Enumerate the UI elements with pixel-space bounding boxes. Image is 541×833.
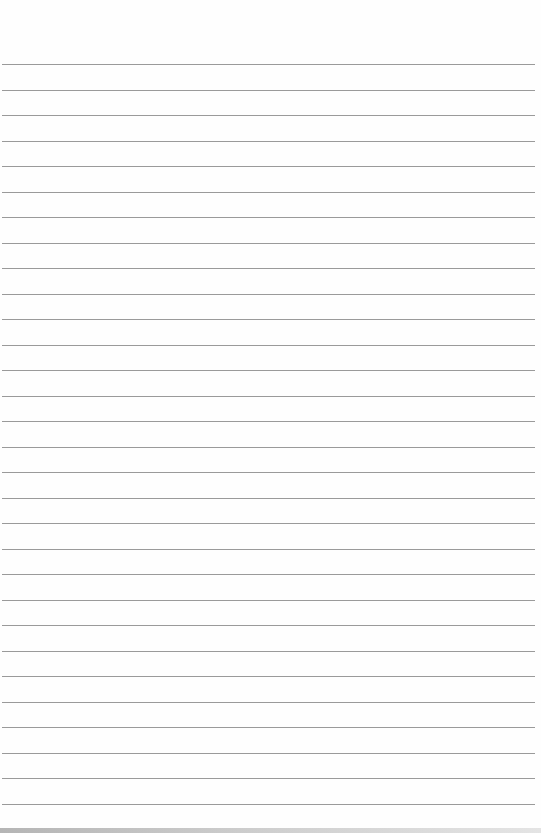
ruled-line <box>2 64 535 65</box>
ruled-line <box>2 217 535 218</box>
ruled-line <box>2 753 535 754</box>
ruled-line <box>2 90 535 91</box>
ruled-line <box>2 472 535 473</box>
ruled-line <box>2 421 535 422</box>
ruled-line <box>2 625 535 626</box>
lined-paper-page <box>0 0 541 833</box>
ruled-line <box>2 498 535 499</box>
ruled-line <box>2 268 535 269</box>
ruled-line <box>2 778 535 779</box>
ruled-line <box>2 243 535 244</box>
ruled-line <box>2 192 535 193</box>
ruled-line <box>2 370 535 371</box>
ruled-line <box>2 651 535 652</box>
ruled-line <box>2 447 535 448</box>
ruled-line <box>2 396 535 397</box>
ruled-line <box>2 141 535 142</box>
ruled-line <box>2 523 535 524</box>
page-bottom-edge <box>0 828 541 833</box>
ruled-line <box>2 294 535 295</box>
ruled-line <box>2 166 535 167</box>
ruled-line <box>2 319 535 320</box>
ruled-line <box>2 727 535 728</box>
ruled-line <box>2 115 535 116</box>
ruled-line <box>2 600 535 601</box>
ruled-line <box>2 345 535 346</box>
ruled-line <box>2 676 535 677</box>
ruled-line <box>2 574 535 575</box>
ruled-line <box>2 549 535 550</box>
ruled-line <box>2 702 535 703</box>
ruled-line <box>2 804 535 805</box>
